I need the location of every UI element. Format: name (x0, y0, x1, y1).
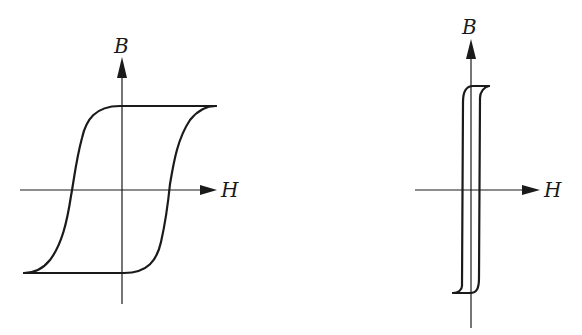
left-h-label: H (220, 178, 239, 202)
left-b-axis-arrow-icon (117, 57, 127, 78)
right-h-axis-arrow-icon (522, 185, 540, 195)
left-panel: H B (20, 34, 239, 304)
left-b-label: B (113, 34, 129, 58)
hysteresis-figure: H B H B (0, 0, 582, 335)
right-h-label: H (543, 178, 562, 202)
right-panel: H B (415, 15, 562, 328)
left-h-axis-arrow-icon (200, 185, 217, 195)
right-b-axis-arrow-icon (466, 39, 476, 59)
right-b-label: B (461, 15, 477, 39)
